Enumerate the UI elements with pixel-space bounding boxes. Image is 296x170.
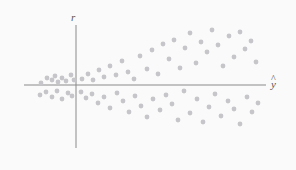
residual-plot-figure: r ^ y (0, 0, 296, 170)
scatter-point (176, 118, 181, 123)
scatter-point (139, 104, 144, 109)
scatter-point (127, 110, 132, 115)
scatter-point (245, 95, 250, 100)
scatter-point (50, 95, 55, 100)
y-axis-label: r (71, 12, 75, 23)
x-axis-label: ^ y (271, 79, 276, 90)
scatter-point (79, 90, 84, 95)
scatter-point (45, 76, 50, 81)
scatter-point (38, 93, 43, 98)
scatter-point (243, 47, 248, 52)
scatter-point (60, 97, 65, 102)
scatter-point (195, 97, 200, 102)
scatter-point (216, 43, 221, 48)
scatter-point (126, 70, 131, 75)
scatter-point (232, 55, 237, 60)
scatter-point (50, 78, 55, 83)
scatter-point (108, 64, 113, 69)
scatter-point (250, 110, 255, 115)
scatter-point (120, 59, 125, 64)
scatter-point (161, 42, 166, 47)
scatter-point (194, 61, 199, 66)
scatter-point (97, 68, 102, 73)
scatter-point (219, 114, 224, 119)
scatter-point (56, 80, 61, 85)
scatter-point (238, 122, 243, 127)
scatter-point (201, 120, 206, 125)
scatter-point (60, 76, 65, 81)
scatter-point (183, 46, 188, 51)
scatter-point (226, 99, 231, 104)
scatter-point (158, 108, 163, 113)
scatter-point (70, 94, 75, 99)
scatter-point (133, 94, 138, 99)
hat-accent-icon: ^ (271, 74, 276, 84)
scatter-point (84, 96, 89, 101)
scatter-point (167, 57, 172, 62)
scatter-point (86, 72, 91, 77)
scatter-point (227, 34, 232, 39)
scatter-point (102, 95, 107, 100)
scatter-point (232, 107, 237, 112)
scatter-point (138, 54, 143, 59)
scatter-point (221, 64, 226, 69)
scatter-point (91, 78, 96, 83)
scatter-point (80, 77, 85, 82)
scatter-point (238, 30, 243, 35)
scatter-point (213, 92, 218, 97)
scatter-point (72, 78, 77, 83)
scatter-point (188, 31, 193, 36)
scatter-point (172, 38, 177, 43)
scatter-point (188, 111, 193, 116)
scatter-point (66, 91, 71, 96)
scatter-point (69, 73, 74, 78)
scatter-point (55, 89, 60, 94)
scatter-point (132, 77, 137, 82)
scatter-point (121, 99, 126, 104)
scatter-point (90, 92, 95, 97)
scatter-point (44, 90, 49, 95)
scatter-point (96, 101, 101, 106)
scatter-point (182, 89, 187, 94)
scatter-point (178, 66, 183, 71)
scatter-point (207, 105, 212, 110)
scatter-point (53, 74, 58, 79)
scatter-point (39, 81, 44, 86)
scatter-point (145, 115, 150, 120)
scatter-point (115, 91, 120, 96)
scatter-point (256, 101, 261, 106)
scatter-point (170, 102, 175, 107)
scatter-point (102, 75, 107, 80)
scatter-point (249, 39, 254, 44)
scatter-point (145, 67, 150, 72)
scatter-point (210, 28, 215, 33)
scatter-point (64, 79, 69, 84)
scatter-point (199, 40, 204, 45)
scatter-point (156, 72, 161, 77)
scatter-point (114, 73, 119, 78)
scatter-point (150, 48, 155, 53)
y-hat-glyph: ^ y (271, 79, 276, 90)
scatter-point (205, 50, 210, 55)
scatter-point (108, 106, 113, 111)
scatter-point (254, 60, 259, 65)
scatter-point (151, 97, 156, 102)
scatter-plot-canvas (0, 0, 296, 170)
scatter-point (164, 93, 169, 98)
